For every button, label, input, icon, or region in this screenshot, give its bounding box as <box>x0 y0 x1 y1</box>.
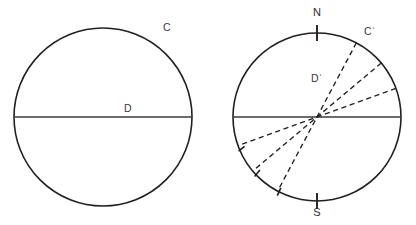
left-diagram-group: C D <box>14 21 192 206</box>
north-label: N <box>313 6 321 18</box>
left-diameter-label-d: D <box>124 102 132 114</box>
figure-container: C D N S Cˈ Dˈ <box>0 0 416 225</box>
right-interior-label-d-prime: Dˈ <box>311 72 322 84</box>
left-arc-label-c: C <box>163 21 171 33</box>
circle-diagram-svg: C D N S Cˈ Dˈ <box>0 0 416 225</box>
south-label: S <box>313 206 321 218</box>
right-arc-label-c-prime: Cˈ <box>364 25 375 37</box>
right-diagram-group: N S Cˈ Dˈ <box>233 6 401 218</box>
